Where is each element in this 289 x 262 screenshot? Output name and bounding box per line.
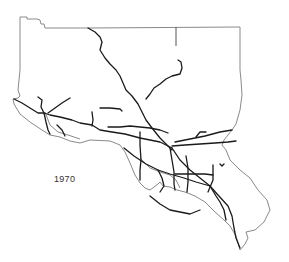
year-label: 1970 bbox=[54, 174, 75, 184]
freeway-interior-crossing bbox=[175, 174, 213, 175]
freeway-west-spur-north bbox=[38, 97, 44, 113]
freeway-southwest-diagonal bbox=[124, 148, 210, 186]
freeway-east-main bbox=[172, 148, 240, 248]
freeway-inland-spur bbox=[92, 112, 93, 126]
freeway-central-a bbox=[108, 126, 168, 133]
freeway-east-arterial bbox=[172, 141, 236, 146]
freeway-north-south-west bbox=[140, 132, 141, 180]
freeway-map bbox=[0, 0, 289, 262]
freeway-desert-north bbox=[146, 60, 182, 99]
freeway-downtown-south bbox=[170, 148, 175, 190]
freeway-west-spur-northeast bbox=[48, 98, 70, 113]
freeway-northwest-corridor bbox=[88, 28, 172, 150]
freeway-stub-east bbox=[220, 164, 224, 166]
freeway-valley-short bbox=[57, 125, 65, 136]
freeways bbox=[14, 28, 240, 248]
freeway-coastal-south bbox=[150, 196, 200, 214]
freeway-east-west-mid bbox=[100, 108, 122, 111]
